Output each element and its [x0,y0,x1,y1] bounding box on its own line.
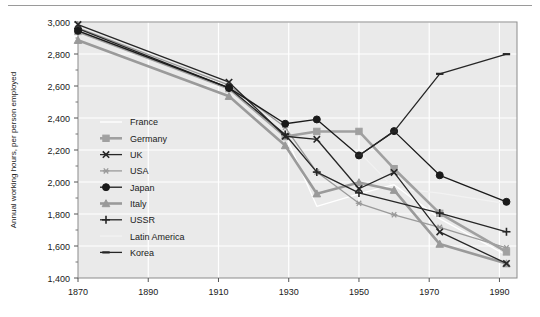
y-axis-tick-label: 3,000 [47,18,70,28]
data-point [282,120,289,127]
x-axis-tick-label: 1910 [208,287,228,297]
line-chart: 1,4001,6001,8002,0002,2002,4002,6002,800… [0,0,540,317]
y-axis-tick-label: 2,400 [47,114,70,124]
y-axis-tick-label: 2,800 [47,50,70,60]
legend-label: Italy [130,199,147,209]
x-axis-tick-label: 1970 [419,287,439,297]
x-axis-tick-label: 1890 [138,287,158,297]
legend-marker-icon [102,251,109,253]
data-point [436,73,443,75]
data-point [503,53,510,55]
y-axis-tick-label: 2,000 [47,178,70,188]
x-axis-tick-label: 1950 [349,287,369,297]
x-axis-tick-label: 1930 [279,287,299,297]
data-point [503,249,509,255]
data-point [356,128,362,134]
chart-page: 1,4001,6001,8002,0002,2002,4002,6002,800… [0,0,540,317]
y-axis-tick-label: 2,600 [47,82,70,92]
data-point [355,154,362,156]
data-point [390,130,397,132]
data-point [436,172,443,179]
legend-label: USA [130,166,149,176]
x-axis-tick-label: 1870 [68,287,88,297]
y-axis-tick-label: 2,200 [47,146,70,156]
legend-label: Japan [130,183,155,193]
legend-label: Germany [130,134,168,144]
data-point [75,27,82,34]
legend-label: Korea [130,248,154,258]
legend-label: Latin America [130,232,185,242]
data-point [313,116,320,123]
legend-marker-icon [103,184,110,191]
data-point [314,128,320,134]
data-point [503,198,510,205]
legend-label: France [130,117,158,127]
legend-label: USSR [130,215,156,225]
data-point [226,84,233,91]
x-axis-tick-label: 1990 [489,287,509,297]
y-axis-tick-label: 1,800 [47,210,70,220]
y-axis-tick-label: 1,400 [47,274,70,284]
y-axis-title: Annual working hours, per person employe… [9,72,18,229]
chart-svg: 1,4001,6001,8002,0002,2002,4002,6002,800… [0,0,540,317]
legend-marker-icon [103,135,109,141]
y-axis-tick-label: 1,600 [47,242,70,252]
legend-label: UK [130,150,143,160]
